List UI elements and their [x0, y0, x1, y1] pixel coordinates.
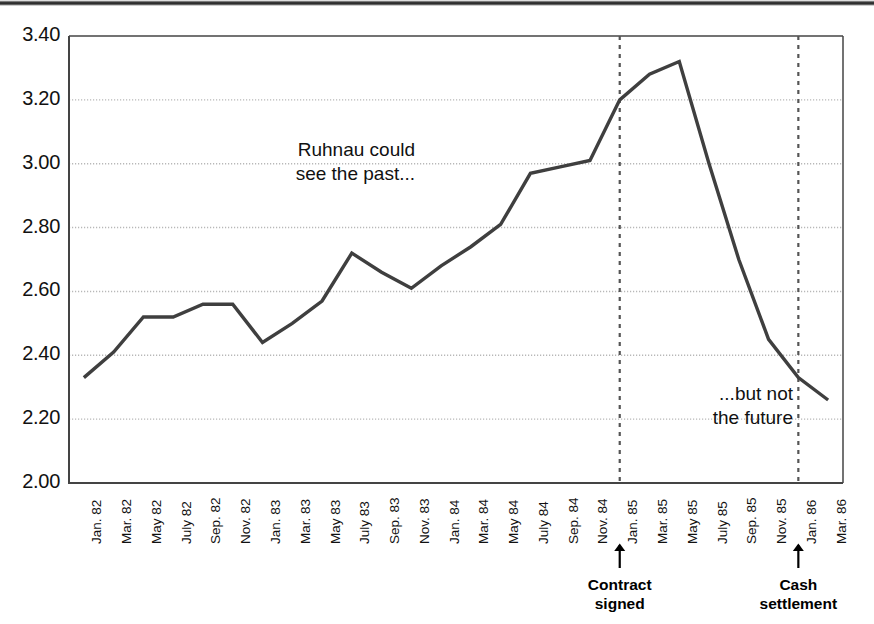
x-tick-july-82: July 82 — [179, 501, 194, 544]
x-tick-may-82: May 82 — [149, 500, 164, 544]
x-tick-july-85: July 85 — [715, 501, 730, 544]
event-label-cash-settlement: Cash settlement — [713, 575, 874, 613]
line-chart: 2.002.202.402.602.803.003.203.40 Jan. 82… — [0, 0, 874, 624]
x-tick-sep-85: Sep. 85 — [744, 497, 759, 544]
x-tick-jan-84: Jan. 84 — [447, 500, 462, 544]
x-tick-nov-84: Nov. 84 — [595, 498, 610, 544]
x-tick-sep-84: Sep. 84 — [566, 497, 581, 544]
event-label-contract-signed: Contract signed — [535, 575, 705, 613]
x-tick-mar-83: Mar. 83 — [298, 499, 313, 544]
x-tick-mar-85: Mar. 85 — [655, 499, 670, 544]
x-tick-sep-83: Sep. 83 — [387, 497, 402, 544]
y-tick-2-20: 2.20 — [2, 406, 60, 429]
annotation-past-note: Ruhnau could see the past... — [170, 138, 415, 186]
x-tick-may-84: May 84 — [506, 500, 521, 544]
x-tick-mar-86: Mar. 86 — [834, 499, 849, 544]
y-tick-2-80: 2.80 — [2, 215, 60, 238]
y-tick-3-40: 3.40 — [2, 23, 60, 46]
x-tick-nov-85: Nov. 85 — [774, 498, 789, 544]
x-tick-sep-82: Sep. 82 — [208, 497, 223, 544]
x-tick-nov-82: Nov. 82 — [238, 498, 253, 544]
x-tick-may-83: May 83 — [328, 500, 343, 544]
x-tick-jan-83: Jan. 83 — [268, 500, 283, 544]
x-tick-july-84: July 84 — [536, 501, 551, 544]
x-tick-nov-83: Nov. 83 — [417, 498, 432, 544]
x-tick-jan-86: Jan. 86 — [804, 500, 819, 544]
y-tick-2-40: 2.40 — [2, 342, 60, 365]
data-series-line — [84, 62, 828, 400]
x-tick-mar-82: Mar. 82 — [119, 499, 134, 544]
y-tick-2-00: 2.00 — [2, 470, 60, 493]
x-tick-may-85: May 85 — [685, 500, 700, 544]
y-tick-3-00: 3.00 — [2, 151, 60, 174]
x-tick-jan-82: Jan. 82 — [89, 500, 104, 544]
annotation-future-note: ...but not the future — [600, 382, 793, 430]
y-tick-3-20: 3.20 — [2, 87, 60, 110]
event-marker-arrows — [614, 544, 804, 569]
x-tick-jan-85: Jan. 85 — [625, 500, 640, 544]
x-tick-mar-84: Mar. 84 — [476, 499, 491, 544]
x-tick-july-83: July 83 — [357, 501, 372, 544]
y-tick-2-60: 2.60 — [2, 278, 60, 301]
